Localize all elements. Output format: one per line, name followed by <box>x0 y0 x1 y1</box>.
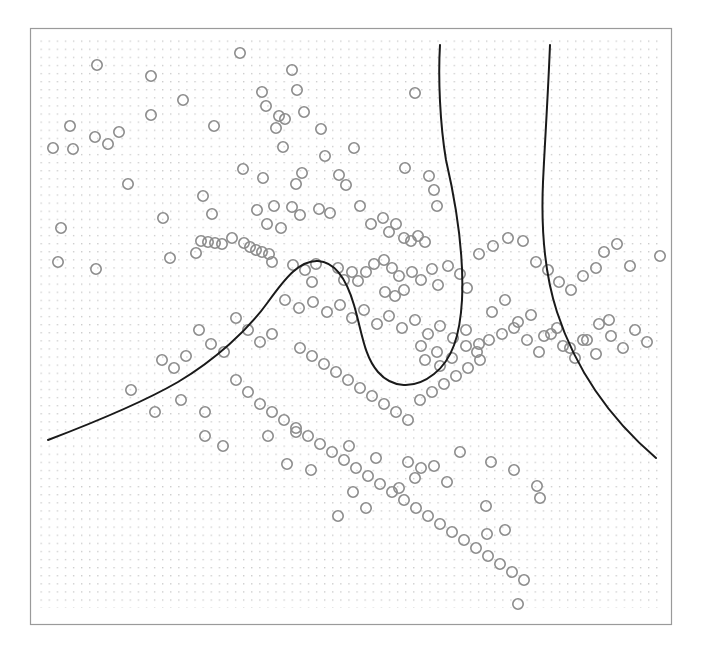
scatter-plot <box>0 0 704 655</box>
figure-canvas <box>0 0 704 655</box>
